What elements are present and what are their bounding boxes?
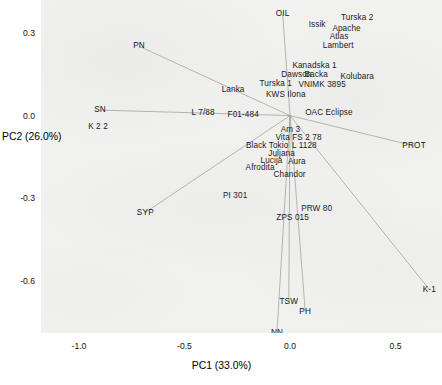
sample-label-issik: Issik xyxy=(309,21,326,29)
sample-label-zps-015: ZPS 015 xyxy=(276,214,309,222)
sample-label-f01-484: F01-484 xyxy=(228,110,259,118)
variable-label-tsw: TSW xyxy=(279,298,298,306)
variable-label-ph: PH xyxy=(299,307,311,315)
sample-label-turska-2: Turska 2 xyxy=(341,13,373,21)
sample-label-pi-301: PI 301 xyxy=(223,192,247,200)
variable-label-nn: NN xyxy=(271,329,283,333)
x-tick-label: 0.5 xyxy=(390,341,402,351)
variable-label-syp: SYP xyxy=(137,208,154,216)
variable-label-pn: PN xyxy=(133,42,145,50)
sample-label-lanka: Lanka xyxy=(222,86,245,94)
x-tick-label: -0.5 xyxy=(177,341,192,351)
sample-label-kws-ilona: KWS Ilona xyxy=(266,91,306,99)
sample-label-afrodita: Afrodita xyxy=(246,164,275,172)
y-tick-label: -0.3 xyxy=(20,193,35,203)
sample-label-backa: Backa xyxy=(305,71,328,79)
y-tick-label: -0.6 xyxy=(20,276,35,286)
y-axis-title: PC2 (26.0%) xyxy=(2,131,61,142)
sample-label-kanadska-1: Kanadska 1 xyxy=(292,61,336,69)
variable-label-k-1: K-1 xyxy=(423,285,436,293)
sample-label-oac-eclipse: OAC Eclipse xyxy=(305,109,353,117)
loading-vector-oil xyxy=(283,14,290,115)
loading-vectors-layer xyxy=(41,0,442,333)
sample-label-vnimk-3895: VNIMK 3895 xyxy=(298,81,345,89)
variable-label-prot: PROT xyxy=(402,142,426,150)
y-tick-label: 0.0 xyxy=(23,111,35,121)
pca-biplot-figure: OILIssikTurska 2ApacheAtlasLambertPNKana… xyxy=(0,0,442,385)
sample-label-chandor: Chandor xyxy=(274,171,306,179)
plot-panel: OILIssikTurska 2ApacheAtlasLambertPNKana… xyxy=(41,0,442,333)
sample-label-aura: Aura xyxy=(288,158,306,166)
variable-label-sn: SN xyxy=(94,106,106,114)
x-tick-label: 0.0 xyxy=(284,341,296,351)
sample-label-kolubara: Kolubara xyxy=(340,73,374,81)
sample-label-l-1128: L 1128 xyxy=(292,142,317,150)
variable-label-oil: OIL xyxy=(276,10,290,18)
y-tick-label: 0.3 xyxy=(23,28,35,38)
sample-label-l-7-88: L 7/88 xyxy=(192,109,215,117)
loading-vector-tsw xyxy=(289,116,290,303)
sample-label-lambert: Lambert xyxy=(323,42,354,50)
x-axis-title: PC1 (33.0%) xyxy=(192,360,251,371)
sample-label-k-2-2: K 2 2 xyxy=(88,123,108,131)
sample-label-turska-1: Turska 1 xyxy=(260,80,292,88)
x-tick-label: -1.0 xyxy=(72,341,87,351)
